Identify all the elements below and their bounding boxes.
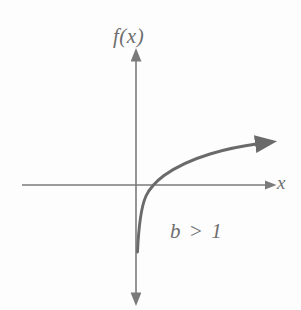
y-axis-label: f(x) <box>113 24 144 49</box>
base-condition-annotation: b > 1 <box>170 219 223 244</box>
graph-canvas <box>0 0 301 310</box>
logarithmic-function-figure: f(x) x b > 1 <box>0 0 301 310</box>
x-axis-label: x <box>277 172 285 194</box>
